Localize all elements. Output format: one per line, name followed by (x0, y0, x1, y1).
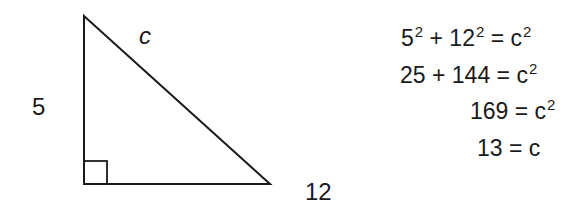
eq-term: 169 = c (470, 98, 546, 124)
eq-term: 25 + 144 = c (400, 62, 528, 88)
eq-term: + 12 (423, 25, 475, 51)
equation-line-4: 13 = c (477, 136, 540, 160)
equation-line-1: 52 + 122 = c2 (401, 26, 531, 53)
equation-line-2: 25 + 144 = c2 (400, 63, 537, 90)
exponent: 2 (415, 23, 423, 40)
horizontal-leg-label: 12 (305, 180, 332, 204)
exponent: 2 (476, 23, 484, 40)
hypotenuse-label: c (139, 24, 151, 48)
eq-term: = c (484, 25, 522, 51)
eq-term: 5 (401, 25, 414, 51)
eq-term: 13 = c (477, 135, 540, 161)
right-angle-marker (84, 161, 107, 184)
exponent: 2 (523, 23, 531, 40)
triangle-shape (84, 16, 270, 184)
equation-line-3: 169 = c2 (470, 99, 555, 126)
exponent: 2 (547, 96, 555, 113)
exponent: 2 (529, 60, 537, 77)
vertical-leg-label: 5 (32, 95, 45, 119)
